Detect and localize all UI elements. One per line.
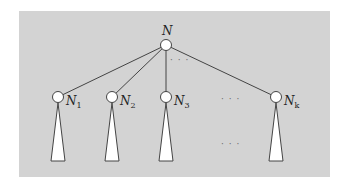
tree-nodes	[53, 40, 282, 103]
ellipsis-between-children: · · ·	[221, 94, 240, 104]
root-label: N	[161, 24, 173, 38]
ellipsis-between-subtrees: · · ·	[221, 139, 240, 149]
edge-root-n1	[58, 45, 166, 97]
child-node-n1	[53, 92, 64, 103]
child-node-nk	[271, 92, 282, 103]
subtree-n3-triangle	[159, 103, 173, 161]
child-label-n3: N3	[173, 94, 190, 110]
child-label-nk: Nk	[283, 94, 300, 110]
tree-diagram: N N1 N2 N3 Nk · · · · · · · · ·	[0, 0, 344, 185]
child-node-n2	[107, 92, 118, 103]
child-label-n1: N1	[65, 94, 82, 110]
subtree-n2-triangle	[105, 103, 119, 161]
subtree-n1-triangle	[51, 103, 65, 161]
subtree-nk-triangle	[269, 103, 283, 161]
tree-edges	[58, 45, 276, 97]
child-node-n3	[161, 92, 172, 103]
edge-root-n2	[112, 45, 166, 97]
root-node	[161, 40, 172, 51]
subtrees	[51, 103, 283, 161]
ellipsis-below-root: · · ·	[170, 55, 189, 65]
edge-root-nk	[166, 45, 276, 97]
child-label-n2: N2	[119, 94, 136, 110]
